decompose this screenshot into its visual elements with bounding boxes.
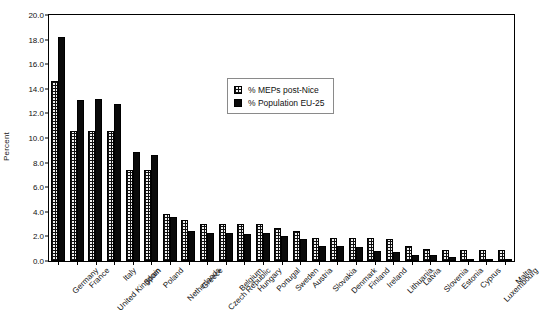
bar xyxy=(256,224,263,261)
bar xyxy=(95,99,102,261)
bar-group xyxy=(365,238,384,261)
x-axis-tick-mark xyxy=(505,261,506,265)
bar xyxy=(330,238,337,261)
bar-group xyxy=(105,104,124,261)
bar xyxy=(300,239,307,261)
bar-group xyxy=(198,224,217,262)
bar xyxy=(423,249,430,261)
x-axis-tick-label: Poland xyxy=(162,266,186,290)
x-axis-tick-mark xyxy=(486,261,487,265)
bar-group xyxy=(68,100,87,261)
x-axis-tick-mark xyxy=(207,261,208,265)
bar xyxy=(163,214,170,261)
bar-group xyxy=(440,250,459,261)
bar-group xyxy=(477,250,496,261)
bar xyxy=(219,224,226,261)
bar xyxy=(505,259,512,261)
x-axis-tick-mark xyxy=(226,261,227,265)
bar xyxy=(58,37,65,261)
bar-group xyxy=(254,224,273,261)
bar-group xyxy=(49,37,68,261)
bar xyxy=(374,251,381,261)
bar xyxy=(293,231,300,261)
bar-group xyxy=(123,152,142,261)
y-axis-title: Percent xyxy=(2,112,16,182)
x-axis-tick-mark xyxy=(412,261,413,265)
bar xyxy=(460,250,467,261)
x-axis-tick-mark xyxy=(337,261,338,265)
bar xyxy=(144,170,151,261)
bar-group xyxy=(235,224,254,261)
bar xyxy=(226,233,233,261)
x-axis-tick-mark xyxy=(300,261,301,265)
bar xyxy=(386,239,393,261)
bar xyxy=(479,250,486,261)
bar xyxy=(337,246,344,261)
bar-group xyxy=(142,155,161,261)
x-axis-tick-mark xyxy=(449,261,450,265)
bar xyxy=(151,155,158,261)
bar xyxy=(51,81,58,261)
bar xyxy=(393,252,400,261)
x-axis-tick-mark xyxy=(375,261,376,265)
legend-item-meps: % MEPs post-Nice xyxy=(234,83,325,96)
plot-inner: 0.02.04.06.08.010.012.014.016.018.020.0 xyxy=(49,15,514,261)
bar-group xyxy=(328,238,347,261)
bar xyxy=(367,238,374,261)
bar xyxy=(412,255,419,261)
x-axis-tick-mark xyxy=(430,261,431,265)
bar xyxy=(467,259,474,261)
bar-group xyxy=(86,99,105,261)
bar xyxy=(281,236,288,261)
bar-group xyxy=(458,250,477,261)
x-axis-tick-mark xyxy=(263,261,264,265)
bar xyxy=(70,131,77,261)
bar xyxy=(312,238,319,261)
bar-group xyxy=(179,220,198,261)
bar xyxy=(486,259,493,261)
bar-group xyxy=(495,250,514,261)
x-axis-tick-mark xyxy=(189,261,190,265)
chart-legend: % MEPs post-Nice % Population EU-25 xyxy=(227,78,334,114)
bar xyxy=(188,231,195,261)
x-axis-tick-label: Italy xyxy=(121,266,138,283)
plot-area: 0.02.04.06.08.010.012.014.016.018.020.0 xyxy=(48,14,515,262)
x-axis-tick-mark xyxy=(319,261,320,265)
bar xyxy=(77,100,84,261)
x-axis-tick-mark xyxy=(170,261,171,265)
bar-group xyxy=(291,231,310,261)
bar-group xyxy=(161,214,180,261)
bar xyxy=(114,104,121,261)
x-axis-tick-mark xyxy=(282,261,283,265)
legend-swatch-population-icon xyxy=(234,99,242,107)
bar xyxy=(237,224,244,261)
legend-label-population: % Population EU-25 xyxy=(248,98,325,108)
bar xyxy=(88,131,95,261)
legend-label-meps: % MEPs post-Nice xyxy=(248,85,319,95)
bar xyxy=(200,224,207,262)
bar-group xyxy=(309,238,328,261)
legend-swatch-meps-icon xyxy=(234,86,242,94)
bar xyxy=(405,246,412,261)
bar xyxy=(430,255,437,261)
bar-group xyxy=(402,246,421,261)
bar xyxy=(107,131,114,261)
x-axis-tick-mark xyxy=(114,261,115,265)
bar-group xyxy=(347,238,366,261)
bar xyxy=(498,250,505,261)
y-axis-tick-mark xyxy=(45,15,49,16)
bar xyxy=(349,238,356,261)
bar-group xyxy=(272,228,291,261)
x-axis-tick-mark xyxy=(244,261,245,265)
x-axis-tick-mark xyxy=(393,261,394,265)
bar xyxy=(170,217,177,261)
bar xyxy=(244,234,251,261)
x-axis-tick-mark xyxy=(468,261,469,265)
x-axis-tick-mark xyxy=(96,261,97,265)
bar xyxy=(133,152,140,261)
bar-group xyxy=(421,249,440,261)
bar xyxy=(181,220,188,261)
bar-group xyxy=(216,224,235,261)
bar xyxy=(356,247,363,261)
